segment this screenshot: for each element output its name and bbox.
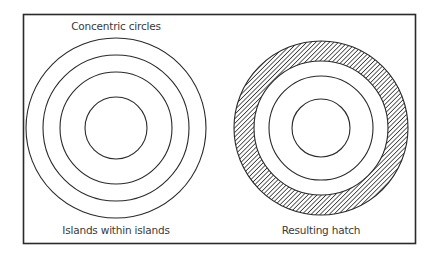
right-panel: Resulting hatch (0, 0, 436, 257)
right-panel-caption: Resulting hatch (282, 224, 361, 236)
hatch-islands-diagram: Concentric circles Islands within island… (0, 0, 436, 257)
hatched-band (0, 0, 436, 257)
